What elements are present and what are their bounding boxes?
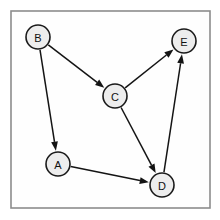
- graph-node-e[interactable]: E: [172, 29, 196, 53]
- node-circle[interactable]: [46, 152, 70, 176]
- graph-node-d[interactable]: D: [150, 173, 174, 197]
- node-circle[interactable]: [150, 173, 174, 197]
- node-circle[interactable]: [26, 25, 50, 49]
- node-circle[interactable]: [103, 84, 127, 108]
- node-circle[interactable]: [172, 29, 196, 53]
- graph-node-c[interactable]: C: [103, 84, 127, 108]
- graph-node-a[interactable]: A: [46, 152, 70, 176]
- graph-canvas: BCEAD: [0, 0, 220, 220]
- graph-figure: BCEAD: [0, 0, 220, 220]
- graph-node-b[interactable]: B: [26, 25, 50, 49]
